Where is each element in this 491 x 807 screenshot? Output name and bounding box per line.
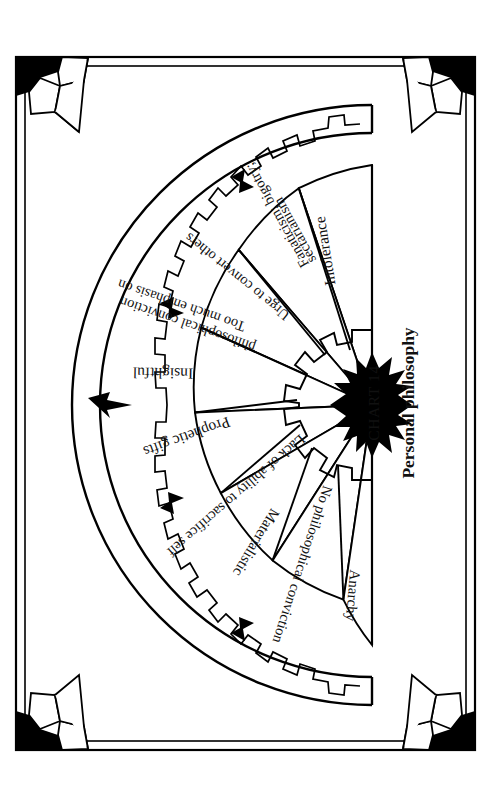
sector-label-insightful: Insightful xyxy=(133,364,194,382)
chart-illustration: Intolerance Fanaticism; bigotry; sectari… xyxy=(0,0,491,807)
chart-title-caption: Personal philosophy xyxy=(398,327,418,478)
chart-number-caption: CHART 14 xyxy=(365,365,382,441)
page-canvas: Intolerance Fanaticism; bigotry; sectari… xyxy=(0,0,491,807)
